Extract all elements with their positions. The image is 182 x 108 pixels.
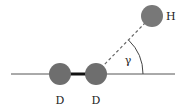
label-d-right: D (92, 94, 101, 107)
d-to-h-dashed-line (101, 23, 145, 68)
hydrogen-atom (141, 5, 163, 27)
deuterium-atom-left (49, 63, 71, 85)
label-gamma: γ (125, 54, 132, 67)
deuterium-atom-right (85, 63, 107, 85)
label-h: H (166, 10, 176, 23)
diagram-canvas: D D H γ (0, 0, 182, 108)
label-d-left: D (56, 94, 65, 107)
